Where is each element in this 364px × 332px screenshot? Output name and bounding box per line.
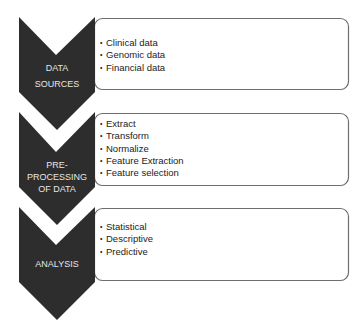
bullet-icon: • [100,37,102,49]
bullet-icon: • [100,143,102,155]
list-item: •Descriptive [100,233,153,245]
list-item: •Genomic data [100,49,165,61]
bullet-icon: • [100,62,102,74]
process-flow-diagram: DATA SOURCES PRE-PROCESSING OF DATA ANAL… [0,0,364,332]
bullet-icon: • [100,167,102,179]
bullet-icon: • [100,130,102,142]
list-item: •Financial data [100,62,165,74]
stage-1-label: DATA SOURCES [19,62,95,90]
list-item: •Extract [100,118,184,130]
list-item: •Normalize [100,143,184,155]
bullet-icon: • [100,221,102,233]
stage-3-label-line-1: ANALYSIS [19,258,95,270]
list-item: •Clinical data [100,37,165,49]
bullet-icon: • [100,118,102,130]
stage-2-label-line-2: OF DATA [17,183,97,195]
stage-1-label-line-2: SOURCES [19,78,95,90]
stage-2-label: PRE-PROCESSING OF DATA [17,159,97,195]
list-item: •Feature selection [100,167,184,179]
bullet-icon: • [100,246,102,258]
bullet-icon: • [100,233,102,245]
stage-2-label-line-1: PRE-PROCESSING [17,159,97,183]
list-item: •Statistical [100,221,153,233]
list-item: •Predictive [100,246,153,258]
list-item: •Feature Extraction [100,155,184,167]
stage-3-label: ANALYSIS [19,258,95,270]
list-item: •Transform [100,130,184,142]
stage-3-item-list: •Statistical •Descriptive •Predictive [100,221,153,258]
stage-2-item-list: •Extract •Transform •Normalize •Feature … [100,118,184,179]
bullet-icon: • [100,155,102,167]
bullet-icon: • [100,49,102,61]
stage-1-label-line-1: DATA [19,62,95,74]
stage-1-item-list: •Clinical data •Genomic data •Financial … [100,37,165,74]
